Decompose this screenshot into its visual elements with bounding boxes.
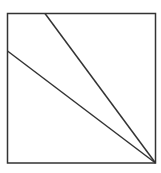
diagonal-line-from-left [8,51,156,163]
diagonal-line-from-top [45,14,156,164]
square-diagram [0,0,161,173]
square-outline [8,14,156,164]
